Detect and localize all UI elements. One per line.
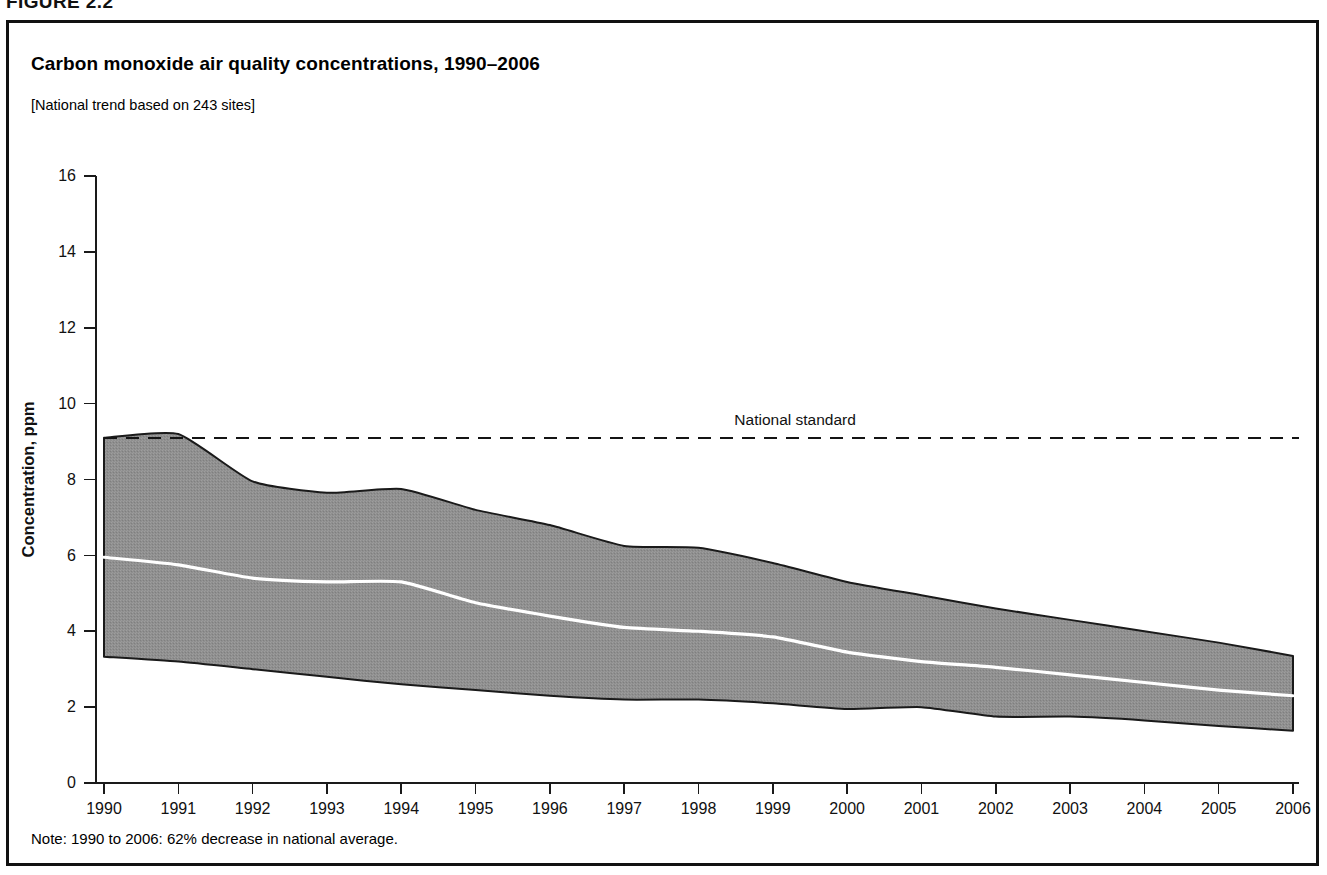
figure-label: FIGURE 2.2	[6, 0, 113, 13]
figure-panel: Carbon monoxide air quality concentratio…	[6, 20, 1319, 866]
chart-note: Note: 1990 to 2006: 62% decrease in nati…	[31, 830, 398, 847]
chart-title: Carbon monoxide air quality concentratio…	[31, 53, 540, 75]
chart-subtitle: [National trend based on 243 sites]	[31, 97, 255, 113]
